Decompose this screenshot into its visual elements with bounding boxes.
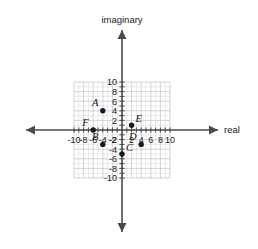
y-tick-label: 10: [107, 77, 117, 87]
y-tick-label: 6: [112, 97, 117, 107]
plotted-point-a: [100, 108, 105, 113]
complex-plane-figure: -10-8-6-4-2246810 108642-2-4-6-8-10 imag…: [0, 0, 258, 249]
x-tick-label: 6: [148, 135, 153, 145]
y-tick-label: -8: [109, 164, 117, 174]
y-tick-label: 4: [112, 106, 117, 116]
point-label-c: C: [126, 142, 134, 153]
y-tick-label: 8: [112, 87, 117, 97]
imaginary-axis-label: imaginary: [101, 14, 142, 25]
y-tick-label: -10: [104, 173, 117, 183]
point-label-a: A: [91, 97, 99, 108]
y-tick-label: -4: [109, 145, 117, 155]
y-tick-label: -6: [109, 154, 117, 164]
point-label-d: D: [128, 131, 137, 142]
x-tick-label: 8: [158, 135, 163, 145]
plotted-point-b: [100, 142, 105, 147]
x-tick-label: -10: [67, 135, 80, 145]
plotted-point-e: [129, 123, 134, 128]
plotted-point-c: [119, 151, 124, 156]
point-label-f: F: [81, 117, 89, 128]
point-label-e: E: [135, 113, 143, 124]
plotted-point-f: [91, 127, 96, 132]
y-tick-label: -2: [109, 135, 117, 145]
x-tick-label: -8: [80, 135, 88, 145]
y-tick-label: 2: [112, 116, 117, 126]
coordinate-plane-svg: -10-8-6-4-2246810 108642-2-4-6-8-10 imag…: [0, 0, 258, 249]
real-axis-label: real: [224, 124, 240, 135]
plotted-point-d: [139, 142, 144, 147]
x-tick-label: 10: [165, 135, 175, 145]
